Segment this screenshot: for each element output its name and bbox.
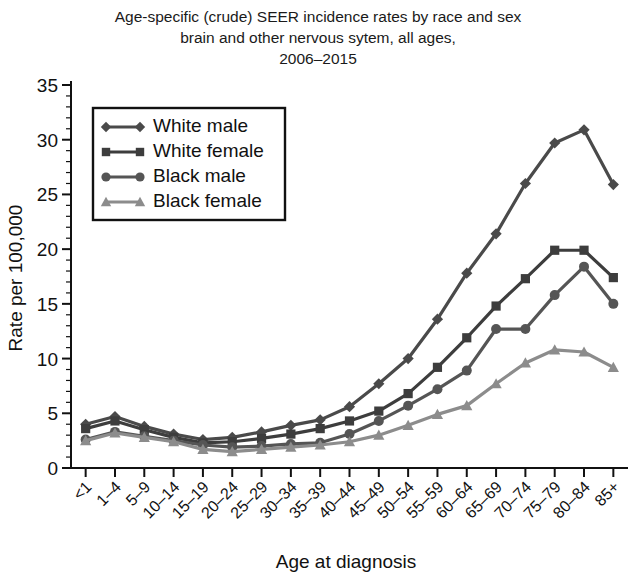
marker-circle — [520, 324, 530, 334]
marker-diamond — [285, 420, 296, 431]
marker-square — [491, 301, 500, 310]
line-chart-plot: 05101520253035 <11–45–910–1415–1920–2425… — [0, 0, 636, 574]
y-axis-tick-label: 15 — [37, 294, 58, 315]
y-axis-tick-label: 35 — [37, 75, 58, 96]
marker-square — [433, 363, 442, 372]
y-axis-tick-label: 30 — [37, 130, 58, 151]
marker-circle — [403, 401, 413, 411]
marker-diamond — [315, 414, 326, 425]
marker-circle — [550, 290, 560, 300]
series-white-female — [81, 246, 618, 448]
marker-circle — [462, 366, 472, 376]
y-axis: 05101520253035 — [37, 75, 71, 479]
marker-square — [316, 424, 325, 433]
y-axis-tick-label: 10 — [37, 349, 58, 370]
marker-square — [136, 148, 144, 156]
x-axis: <11–45–910–1415–1920–2425–2930–3435–3940… — [70, 468, 628, 522]
chart-title: Age-specific (crude) SEER incidence rate… — [0, 6, 636, 69]
legend-item-label: Black male — [153, 165, 246, 186]
chart-title-line-1: Age-specific (crude) SEER incidence rate… — [0, 6, 636, 27]
x-axis-tick-label: 85+ — [591, 478, 622, 509]
legend-item-label: Black female — [153, 190, 262, 211]
marker-square — [374, 406, 383, 415]
chart-title-line-3: 2006–2015 — [0, 48, 636, 69]
marker-square — [550, 246, 559, 255]
marker-circle — [491, 324, 501, 334]
chart-legend: White maleWhite femaleBlack maleBlack fe… — [93, 108, 285, 220]
y-axis-tick-label: 25 — [37, 184, 58, 205]
chart-figure: Age-specific (crude) SEER incidence rate… — [0, 0, 636, 574]
marker-square — [110, 416, 119, 425]
series-line — [86, 250, 614, 443]
marker-square — [102, 148, 110, 156]
marker-square — [286, 429, 295, 438]
legend-item-label: White female — [153, 140, 264, 161]
marker-square — [345, 416, 354, 425]
series-black-female — [80, 344, 619, 456]
y-axis-tick-label: 5 — [47, 403, 58, 424]
marker-square — [404, 389, 413, 398]
legend-item-label: White male — [153, 115, 248, 136]
marker-circle — [432, 384, 442, 394]
y-axis-title: Rate per 100,000 — [5, 205, 26, 352]
x-axis-title: Age at diagnosis — [276, 551, 417, 572]
marker-square — [579, 246, 588, 255]
marker-circle — [101, 172, 110, 181]
marker-square — [462, 333, 471, 342]
marker-diamond — [578, 124, 589, 135]
marker-square — [81, 424, 90, 433]
marker-square — [521, 274, 530, 283]
marker-circle — [374, 416, 384, 426]
y-axis-tick-label: 0 — [47, 458, 58, 479]
marker-diamond — [608, 179, 619, 190]
chart-title-line-2: brain and other nervous sytem, all ages, — [0, 27, 636, 48]
x-axis-tick-label: 1–4 — [93, 478, 124, 509]
marker-square — [609, 273, 618, 282]
y-axis-tick-label: 20 — [37, 239, 58, 260]
marker-circle — [608, 299, 618, 309]
marker-circle — [135, 172, 144, 181]
x-axis-tick-label: <1 — [70, 478, 95, 503]
marker-circle — [579, 262, 589, 272]
